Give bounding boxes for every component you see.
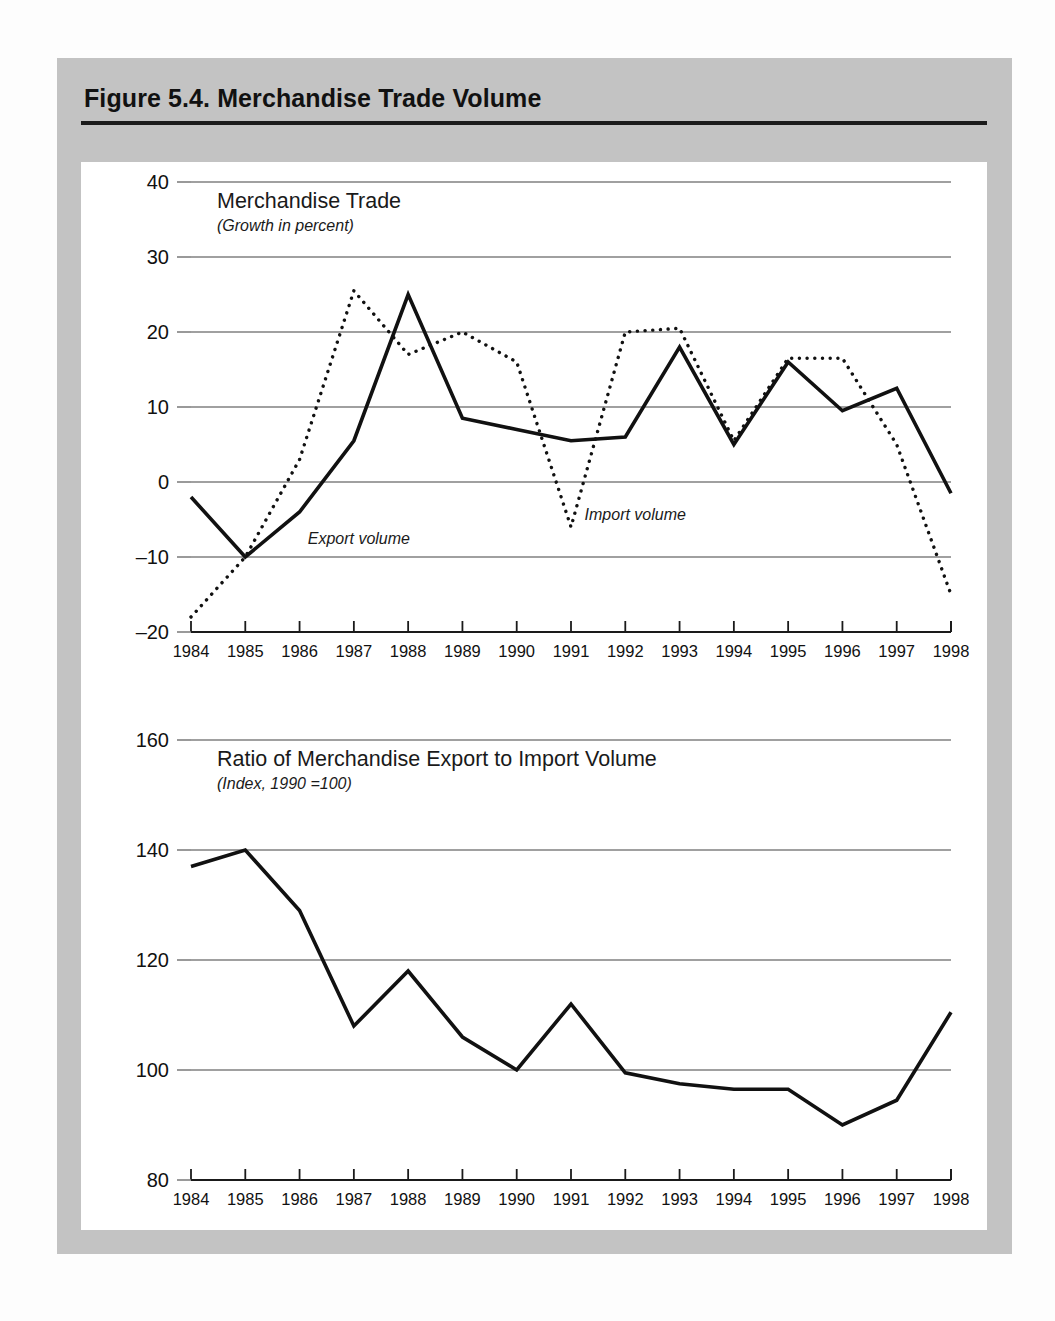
x-axis-label: 1997 [878,1190,915,1208]
chart-merchandise-trade: 403020100–10–201984198519861987198819891… [81,162,987,722]
y-axis-label: 10 [147,396,169,418]
figure-frame: Figure 5.4. Merchandise Trade Volume 403… [57,58,1012,1254]
chart-subtitle: (Index, 1990 =100) [217,775,352,792]
chart-title: Ratio of Merchandise Export to Import Vo… [217,747,657,771]
y-axis-label: 80 [147,1169,169,1191]
x-axis-label: 1992 [607,1190,644,1208]
x-axis-label: 1996 [824,642,861,660]
series-line-import-volume [191,291,951,617]
x-axis-label: 1995 [770,642,807,660]
x-axis-label: 1986 [281,1190,318,1208]
x-axis-label: 1988 [390,642,427,660]
x-axis-label: 1992 [607,642,644,660]
x-axis-label: 1998 [933,642,970,660]
y-axis-label: 0 [158,471,169,493]
y-axis-label: 20 [147,321,169,343]
series-annotation-import-volume: Import volume [585,506,686,523]
x-axis-label: 1984 [173,642,210,660]
x-axis-label: 1995 [770,1190,807,1208]
x-axis-label: 1990 [498,1190,535,1208]
chart-title: Merchandise Trade [217,189,401,213]
x-axis-label: 1989 [444,642,481,660]
x-axis-label: 1997 [878,642,915,660]
y-axis-label: –20 [136,621,169,643]
ratio-export-import-plot: 1601401201008019841985198619871988198919… [81,722,987,1242]
x-axis-label: 1996 [824,1190,861,1208]
figure-title: Figure 5.4. Merchandise Trade Volume [84,84,541,113]
x-axis-label: 1991 [553,642,590,660]
series-line-export-volume [191,295,951,558]
x-axis-label: 1989 [444,1190,481,1208]
x-axis-label: 1994 [716,1190,753,1208]
x-axis-label: 1993 [661,642,698,660]
y-axis-label: –10 [136,546,169,568]
x-axis-label: 1985 [227,1190,264,1208]
y-axis-label: 120 [136,949,169,971]
x-axis-label: 1993 [661,1190,698,1208]
series-line-ratio [191,850,951,1125]
y-axis-label: 100 [136,1059,169,1081]
x-axis-label: 1985 [227,642,264,660]
figure-page: Figure 5.4. Merchandise Trade Volume 403… [0,0,1055,1321]
x-axis-label: 1986 [281,642,318,660]
x-axis-label: 1991 [553,1190,590,1208]
title-divider [81,121,987,125]
x-axis-label: 1998 [933,1190,970,1208]
y-axis-label: 160 [136,729,169,751]
y-axis-label: 140 [136,839,169,861]
x-axis-label: 1988 [390,1190,427,1208]
y-axis-label: 40 [147,171,169,193]
figure-header: Figure 5.4. Merchandise Trade Volume [57,58,1012,162]
x-axis-label: 1984 [173,1190,210,1208]
chart-subtitle: (Growth in percent) [217,217,354,234]
y-axis-label: 30 [147,246,169,268]
x-axis-label: 1987 [336,642,373,660]
chart-ratio-export-import: 1601401201008019841985198619871988198919… [81,722,987,1242]
merchandise-trade-plot: 403020100–10–201984198519861987198819891… [81,162,987,722]
x-axis-label: 1990 [498,642,535,660]
x-axis-label: 1987 [336,1190,373,1208]
x-axis-label: 1994 [716,642,753,660]
chart-panel: 403020100–10–201984198519861987198819891… [81,162,987,1230]
series-annotation-export-volume: Export volume [308,530,410,547]
